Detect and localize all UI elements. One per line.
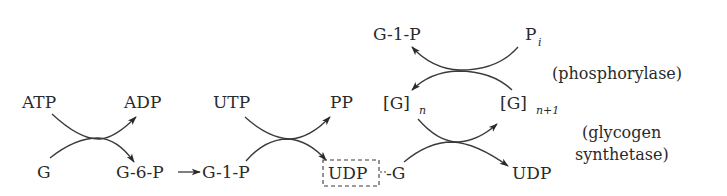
adp-label: ADP (123, 92, 161, 112)
pi-label: P (525, 24, 536, 44)
utp-label: UTP (213, 92, 250, 112)
udp-product-label: UDP (512, 163, 551, 183)
gn-to-gn1-arrow (418, 119, 497, 142)
glycogen-synthetase-reaction: UDP (404, 119, 551, 183)
glycogen-n1-subscript: n+1 (536, 104, 559, 117)
g1p-label: G-1-P (202, 162, 250, 182)
udpg-g-label: -G (386, 163, 405, 183)
gn1-to-gn-arrow (412, 71, 512, 90)
glycogen-n-subscript: n (419, 104, 426, 117)
g1p-to-udpg-arrow (246, 139, 326, 161)
g-label: G (37, 162, 51, 182)
glycogen-synthetase-label-line2: synthetase) (575, 145, 669, 164)
g6p-label: G-6-P (116, 162, 164, 182)
atp-label: ATP (21, 92, 56, 112)
pi-to-g1p-arrow (412, 47, 518, 70)
udpg-to-udp-arrow (404, 142, 508, 166)
phosphorylase-reaction: G-1-P P i (373, 24, 542, 90)
glycogen-synthetase-label-line1: (glycogen (582, 123, 661, 142)
glycogen-n-label: [G] (383, 93, 410, 113)
g-to-g6p-arrow (50, 138, 134, 162)
pp-label: PP (330, 92, 353, 112)
glycogen-metabolism-diagram: ATP ADP G G-6-P G-1-P UTP PP UDP -G [G] … (0, 0, 727, 196)
utp-to-pp-arrow (245, 117, 330, 139)
udp-label: UDP (328, 163, 367, 183)
g1p-top-label: G-1-P (373, 24, 421, 44)
phosphorylase-label: (phosphorylase) (552, 64, 682, 83)
atp-to-adp-arrow (52, 114, 136, 139)
glycogen-n1-label: [G] (500, 93, 527, 113)
pi-subscript: i (538, 36, 542, 49)
